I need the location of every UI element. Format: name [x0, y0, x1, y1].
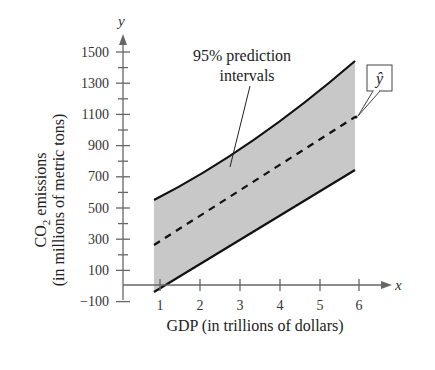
svg-text:1300: 1300 [81, 76, 109, 91]
svg-text:6: 6 [356, 298, 363, 313]
svg-text:1100: 1100 [82, 107, 109, 122]
svg-text:700: 700 [88, 169, 109, 184]
y-axis-arrow-icon [119, 34, 127, 45]
svg-text:1500: 1500 [81, 45, 109, 60]
x-axis-variable: x [394, 277, 402, 293]
y-axis-variable: y [116, 13, 125, 29]
regression-end-dot [355, 116, 358, 119]
annotation-prediction-line2: intervals [219, 67, 274, 84]
x-axis-title: GDP (in trillions of dollars) [166, 317, 343, 335]
y-axis-title: CO2 emissions (in millions of metric ton… [32, 114, 68, 286]
prediction-band [154, 61, 355, 292]
svg-text:5: 5 [317, 298, 324, 313]
svg-text:ŷ: ŷ [374, 70, 384, 88]
x-axis-arrow-icon [381, 281, 392, 289]
svg-text:2: 2 [197, 298, 204, 313]
svg-text:1: 1 [157, 298, 164, 313]
svg-text:500: 500 [88, 201, 109, 216]
svg-text:3: 3 [237, 298, 244, 313]
x-tick-labels: 1 2 3 4 5 6 [157, 298, 363, 313]
svg-text:100: 100 [88, 263, 109, 278]
svg-text:CO2 emissions: CO2 emissions [32, 153, 52, 248]
svg-text:−100: −100 [80, 294, 109, 309]
annotation-prediction-line1: 95% prediction [193, 47, 291, 65]
svg-text:900: 900 [88, 138, 109, 153]
svg-text:4: 4 [277, 298, 284, 313]
yhat-label: ŷ [358, 65, 392, 116]
y-tick-labels: 1500 1300 1100 900 700 500 300 100 −100 [80, 45, 109, 309]
chart: y 1500 1300 1100 900 700 500 300 100 −10… [0, 0, 435, 370]
svg-text:(in millions of metric tons): (in millions of metric tons) [50, 114, 68, 286]
svg-text:300: 300 [88, 232, 109, 247]
y-axis [116, 42, 130, 302]
